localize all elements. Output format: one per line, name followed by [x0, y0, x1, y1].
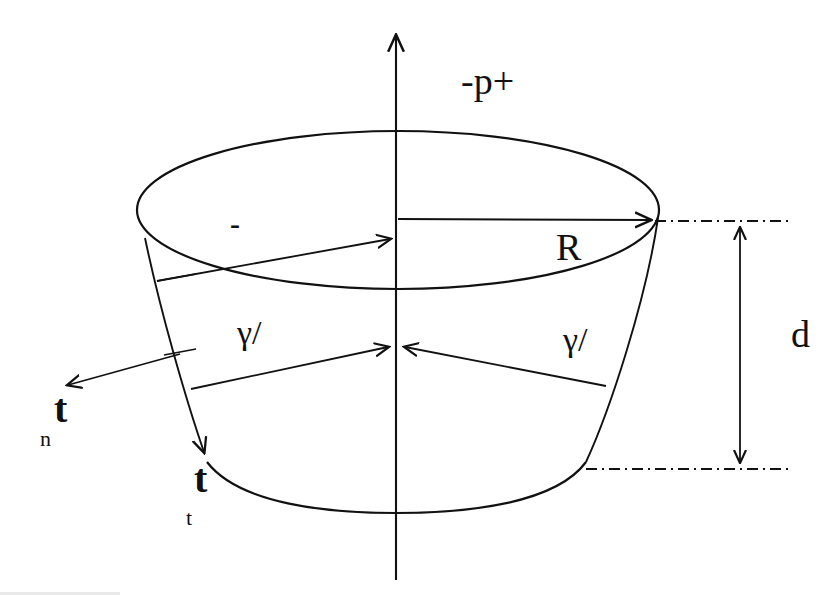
minus-sign-label: - — [230, 209, 240, 239]
gamma-left-label: γ/ — [237, 316, 261, 350]
pressure-label: -p+ — [461, 62, 514, 100]
diagram-canvas — [0, 0, 832, 595]
normal-vector-subscript: n — [40, 426, 51, 452]
normal-vector-base: t — [54, 385, 67, 432]
gamma-right-label: γ/ — [563, 323, 587, 357]
depth-label: d — [791, 315, 810, 353]
radius-arrow — [398, 219, 650, 220]
left-rim-tick-upper — [157, 274, 196, 281]
radius-label: R — [556, 228, 581, 266]
tangential-vector-base: t — [194, 455, 207, 502]
left-slant-edge-arrow — [145, 238, 204, 452]
tangential-vector-label: t t — [186, 455, 256, 525]
right-slant-edge — [586, 218, 658, 462]
frustum-diagram-figure: -p+ R d - γ/ γ/ t n t t — [0, 0, 832, 595]
tangential-vector-subscript: t — [186, 505, 192, 531]
normal-vector-arrow — [68, 354, 180, 385]
gamma-arrow-left — [191, 347, 388, 389]
normal-vector-label: t n — [40, 385, 110, 445]
